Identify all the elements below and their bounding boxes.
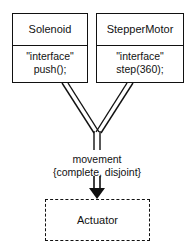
class-body-compartment: "interface" push(); (13, 46, 87, 79)
discriminator-label: movement (0, 153, 194, 166)
class-box-steppermotor[interactable]: StepperMotor "interface" step(360); (96, 13, 184, 83)
class-body-compartment: "interface" step(360); (97, 46, 183, 79)
uml-class-diagram: Solenoid "interface" push(); StepperMoto… (0, 0, 194, 250)
class-box-solenoid[interactable]: Solenoid "interface" push(); (12, 13, 88, 83)
class-name-label: Solenoid (29, 24, 72, 35)
constraint-label: {complete, disjoint} (0, 166, 194, 179)
class-stereotype-label: "interface" (116, 50, 164, 63)
class-operation-label: push(); (34, 63, 67, 76)
class-name-label: StepperMotor (107, 24, 174, 35)
class-box-actuator[interactable]: Actuator (45, 199, 150, 241)
class-name-compartment: Solenoid (13, 14, 87, 46)
class-stereotype-label: "interface" (26, 50, 74, 63)
class-operation-label: step(360); (116, 63, 163, 76)
generalization-label-group: movement {complete, disjoint} (0, 153, 194, 179)
class-name-compartment: StepperMotor (97, 14, 183, 46)
class-name-label: Actuator (77, 215, 118, 226)
